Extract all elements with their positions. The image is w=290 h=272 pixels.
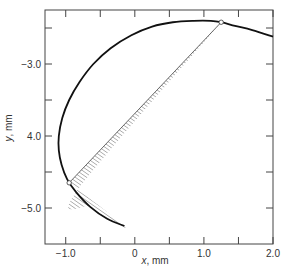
y-tick-label: −5.0 xyxy=(21,203,41,214)
chart: −1.001.02.0−3.04.0−5.0 x, mm y, mm xyxy=(0,0,290,272)
x-tick-label: 0 xyxy=(132,248,138,259)
x-axis-label-unit: , mm xyxy=(146,255,168,266)
y-axis-label: y, mm xyxy=(3,114,14,142)
endpoint-marker xyxy=(219,20,223,24)
y-axis-label-unit: , mm xyxy=(3,114,14,136)
x-tick-label: 2.0 xyxy=(266,248,280,259)
curve-line xyxy=(58,21,273,226)
curve-series xyxy=(58,20,273,226)
chord-line xyxy=(69,22,221,183)
hatched-region xyxy=(68,22,221,228)
x-tick-label: −1.0 xyxy=(56,248,76,259)
x-tick-label: 1.0 xyxy=(197,248,211,259)
endpoint-marker xyxy=(67,181,71,185)
y-tick-label: 4.0 xyxy=(27,131,41,142)
y-tick-label: −3.0 xyxy=(21,59,41,70)
plot-frame xyxy=(45,10,273,244)
axis-ticks xyxy=(45,10,273,244)
hatch-fill xyxy=(68,22,221,228)
x-axis-label: x, mm xyxy=(140,255,168,266)
plot-border xyxy=(45,10,273,244)
